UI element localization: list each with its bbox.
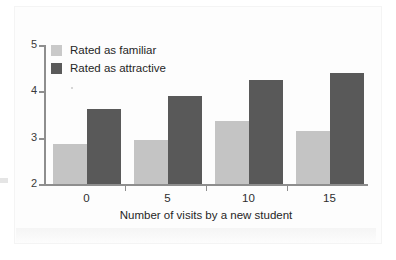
scan-speck [71, 87, 73, 89]
legend-label-attractive: Rated as attractive [70, 62, 166, 74]
bar-attractive-0 [87, 109, 121, 184]
x-tick-label-15: 15 [310, 192, 350, 204]
y-tick-2: 2 [20, 184, 45, 186]
y-axis-line [44, 45, 46, 185]
y-tick-4: 4 [20, 91, 45, 93]
chart-figure: 5 4 3 2 051015 Rated as familiar [0, 0, 396, 260]
y-tick-mark-2 [39, 184, 45, 186]
legend: Rated as familiar Rated as attractive [51, 42, 166, 78]
bar-attractive-10 [249, 80, 283, 184]
x-tick-mark-15 [287, 186, 288, 191]
bar-familiar-10 [215, 121, 249, 184]
y-tick-mark-4 [39, 91, 45, 93]
y-tick-mark-5 [39, 45, 45, 47]
legend-label-familiar: Rated as familiar [70, 44, 156, 56]
bar-familiar-0 [53, 144, 87, 184]
x-tick-label-10: 10 [229, 192, 269, 204]
bar-familiar-5 [134, 140, 168, 184]
y-tick-label-2: 2 [21, 178, 37, 189]
y-tick-label-4: 4 [21, 85, 37, 96]
x-tick-mark-5 [125, 186, 126, 191]
bar-attractive-15 [330, 73, 364, 184]
y-tick-label-5: 5 [21, 39, 37, 50]
y-tick-5: 5 [20, 45, 45, 47]
legend-swatch-attractive-icon [51, 63, 62, 74]
legend-item-attractive[interactable]: Rated as attractive [51, 60, 166, 76]
x-tick-label-5: 5 [148, 192, 188, 204]
y-tick-3: 3 [20, 138, 45, 140]
bar-attractive-5 [168, 96, 202, 184]
bar-familiar-15 [296, 131, 330, 184]
y-tick-label-3: 3 [21, 132, 37, 143]
y-tick-mark-3 [39, 138, 45, 140]
x-axis-title: Number of visits by a new student [44, 209, 368, 221]
legend-item-familiar[interactable]: Rated as familiar [51, 42, 166, 58]
x-tick-mark-10 [206, 186, 207, 191]
x-tick-label-0: 0 [67, 192, 107, 204]
plot-area: 5 4 3 2 051015 Rated as familiar [0, 0, 396, 260]
legend-swatch-familiar-icon [51, 45, 62, 56]
